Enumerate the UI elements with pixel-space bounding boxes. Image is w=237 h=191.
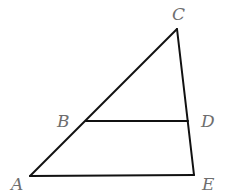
label-point-c: C xyxy=(172,4,185,24)
triangle-diagram: A B C D E xyxy=(0,0,237,191)
label-point-e: E xyxy=(201,174,215,191)
segment-ae xyxy=(30,175,194,176)
label-point-b: B xyxy=(56,111,70,131)
label-point-d: D xyxy=(200,111,215,131)
label-point-a: A xyxy=(9,174,23,191)
segment-ac xyxy=(30,29,177,176)
segment-ce xyxy=(177,29,194,175)
